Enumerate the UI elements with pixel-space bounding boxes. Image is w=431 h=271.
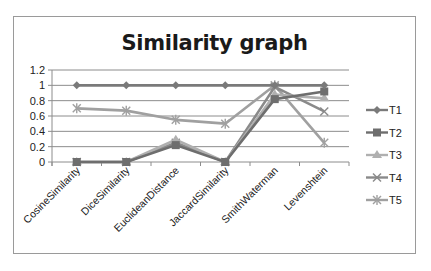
legend-item-t4: T4 bbox=[366, 172, 402, 184]
x-tick-label: DiceSimilarity bbox=[78, 163, 132, 217]
svg-text:T4: T4 bbox=[389, 172, 402, 184]
y-tick-label: 1.2 bbox=[30, 64, 45, 76]
svg-text:T5: T5 bbox=[389, 194, 402, 206]
y-tick-label: 0.2 bbox=[30, 141, 45, 153]
svg-text:T1: T1 bbox=[389, 104, 402, 116]
line-chart: 00.20.40.60.811.2CosineSimilarityDiceSim… bbox=[0, 0, 431, 271]
series-t2 bbox=[73, 87, 329, 166]
svg-text:T3: T3 bbox=[389, 149, 402, 161]
series-t1 bbox=[73, 81, 329, 89]
y-tick-label: 0.6 bbox=[30, 110, 45, 122]
legend-item-t3: T3 bbox=[366, 149, 402, 161]
legend: T1T2T3T4T5 bbox=[366, 104, 402, 206]
y-tick-label: 0.4 bbox=[30, 125, 45, 137]
y-tick-label: 0.8 bbox=[30, 95, 45, 107]
svg-text:T2: T2 bbox=[389, 127, 402, 139]
y-tick-label: 0 bbox=[39, 156, 45, 168]
y-tick-label: 1 bbox=[39, 79, 45, 91]
series-t5 bbox=[73, 80, 329, 147]
x-tick-label: Levenshtein bbox=[281, 164, 330, 213]
legend-item-t2: T2 bbox=[366, 127, 402, 139]
legend-item-t5: T5 bbox=[366, 194, 402, 206]
x-tick-label: CosineSimilarity bbox=[20, 163, 82, 225]
legend-item-t1: T1 bbox=[366, 104, 402, 116]
